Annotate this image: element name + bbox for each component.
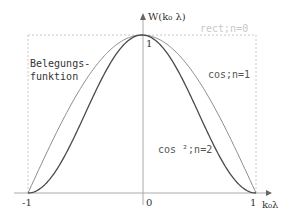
- annotation-line-2: funktion: [30, 71, 78, 82]
- x-axis-arrow: [266, 190, 272, 196]
- y-axis-label: W(k₀ λ): [148, 11, 186, 22]
- chart: W(k₀ λ) k₀λ -1 0 1 1 Belegungs- funktion…: [0, 0, 299, 217]
- legend-cos2: cos ²;n=2: [158, 144, 212, 155]
- legend-rect: rect;n=0: [200, 23, 248, 34]
- y-axis-arrow: [140, 13, 146, 20]
- x-tick-label: 0: [146, 197, 152, 208]
- annotation-line-1: Belegungs-: [30, 58, 90, 69]
- x-tick-label: 1: [250, 197, 256, 208]
- legend-cos: cos;n=1: [208, 69, 250, 80]
- y-tick-label: 1: [146, 38, 152, 49]
- x-tick-label: -1: [22, 197, 32, 208]
- x-axis-label: k₀λ: [262, 199, 279, 210]
